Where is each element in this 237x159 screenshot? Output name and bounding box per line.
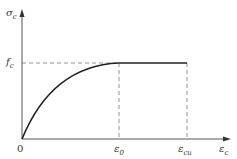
x-axis-label: εc [219, 144, 228, 157]
epscu-label: εcu [178, 144, 192, 157]
y-axis-label: σc [6, 8, 17, 21]
fc-label: fc [6, 57, 14, 70]
eps0-label: ε0 [114, 144, 124, 157]
stress-strain-plot [0, 0, 237, 159]
x-axis-arrow-icon [223, 137, 231, 142]
parabolic-curve [22, 63, 119, 139]
origin-label: 0 [17, 144, 23, 154]
y-axis-arrow-icon [20, 9, 25, 17]
